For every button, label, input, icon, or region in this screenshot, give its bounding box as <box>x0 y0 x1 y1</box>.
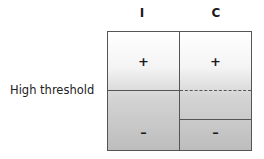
plus-sign-c: + <box>180 54 251 69</box>
panel-c: + – <box>179 31 252 151</box>
minus-sign-c: – <box>180 125 251 140</box>
column-label-i: I <box>132 6 152 20</box>
plus-sign-i: + <box>108 54 179 69</box>
shifted-threshold-line-c <box>180 119 251 120</box>
minus-sign-i: – <box>108 125 179 140</box>
threshold-line-i <box>108 90 179 91</box>
panel-i: + – <box>107 31 180 151</box>
column-label-c: C <box>206 6 226 20</box>
threshold-dashed-line-c <box>180 90 251 91</box>
high-threshold-label: High threshold <box>10 83 94 97</box>
